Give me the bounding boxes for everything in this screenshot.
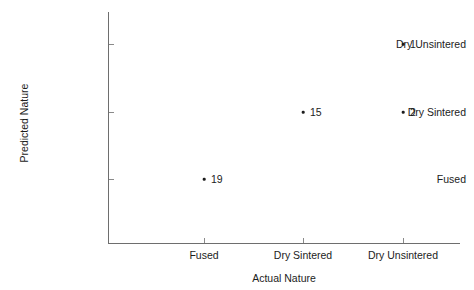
scatter-plot-figure: Dry Unsintered Dry Sintered Fused Fused … bbox=[0, 0, 474, 290]
data-point-label: 2 bbox=[410, 106, 416, 118]
data-point-label: 1 bbox=[410, 38, 416, 50]
y-axis-tick-label-fused: Fused bbox=[370, 173, 474, 185]
y-axis-tick-fused bbox=[109, 179, 114, 180]
data-point-marker bbox=[402, 43, 405, 46]
x-axis-tick-label-dry-sintered: Dry Sintered bbox=[274, 249, 332, 261]
x-axis-line bbox=[108, 243, 460, 244]
data-point-marker bbox=[203, 178, 206, 181]
y-axis-title: Predicted Nature bbox=[18, 53, 30, 193]
data-point-marker bbox=[302, 111, 305, 114]
data-point-label: 19 bbox=[211, 173, 223, 185]
y-axis-line bbox=[108, 12, 109, 244]
x-axis-tick-fused bbox=[204, 238, 205, 243]
x-axis-tick-label-dry-unsintered: Dry Unsintered bbox=[368, 249, 438, 261]
x-axis-title: Actual Nature bbox=[108, 272, 460, 284]
y-axis-tick-dry-sintered bbox=[109, 112, 114, 113]
x-axis-tick-label-fused: Fused bbox=[189, 249, 218, 261]
x-axis-tick-dry-unsintered bbox=[403, 238, 404, 243]
data-point-label: 15 bbox=[310, 106, 322, 118]
data-point-marker bbox=[402, 111, 405, 114]
y-axis-tick-label-dry-unsintered: Dry Unsintered bbox=[370, 38, 474, 50]
y-axis-tick-label-dry-sintered: Dry Sintered bbox=[370, 106, 474, 118]
x-axis-tick-dry-sintered bbox=[303, 238, 304, 243]
y-axis-tick-dry-unsintered bbox=[109, 44, 114, 45]
